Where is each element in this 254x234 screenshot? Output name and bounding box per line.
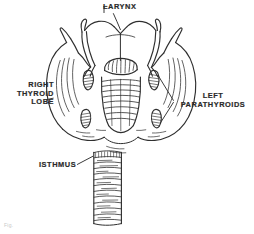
label-larynx: LARYNX xyxy=(103,3,136,12)
parathyroid-superior-left xyxy=(149,70,159,89)
label-isthmus-text: ISTHMUS xyxy=(39,160,76,169)
label-larynx-text: LARYNX xyxy=(103,2,136,11)
label-left-parathyroids: LEFT PARATHYROIDS xyxy=(176,92,250,109)
thyroid-diagram-figure: LARYNX RIGHT THYROID LOBE LEFT PARATHYRO… xyxy=(0,0,254,234)
cricoid-cartilage xyxy=(105,59,138,75)
label-isthmus: ISTHMUS xyxy=(39,161,76,170)
leader-line-isthmus xyxy=(77,156,93,164)
right-thyroid-lobe-shape xyxy=(47,28,106,141)
parathyroid-inferior-right xyxy=(81,109,91,127)
label-left-parathyroids-line2: PARATHYROIDS xyxy=(176,101,250,110)
figure-caption-mark: Fig. xyxy=(4,222,14,228)
parathyroid-inferior-left xyxy=(151,109,161,127)
trachea-upper xyxy=(101,77,140,133)
label-right-thyroid-lobe-line3: LOBE xyxy=(6,98,54,107)
trachea-lower xyxy=(94,151,122,225)
anatomy-illustration xyxy=(0,0,254,234)
label-right-thyroid-lobe: RIGHT THYROID LOBE xyxy=(6,81,54,107)
parathyroid-superior-right xyxy=(83,70,93,89)
left-thyroid-lobe-shape xyxy=(137,28,196,141)
